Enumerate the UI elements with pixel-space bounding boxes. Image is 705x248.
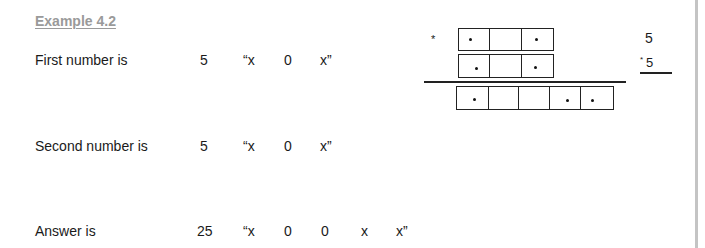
box-cell-empty xyxy=(490,55,521,77)
box-cell-dot xyxy=(581,87,613,109)
dot-icon xyxy=(475,67,478,70)
box-cell-empty xyxy=(490,29,521,50)
first-number-label: First number is xyxy=(35,52,128,68)
box-cell-dot xyxy=(522,29,553,50)
side-calc-operator: * xyxy=(640,55,643,64)
first-number-token: 0 xyxy=(284,52,292,68)
page-edge-bar xyxy=(695,0,698,248)
box-cell-dot xyxy=(459,29,490,50)
answer-value: 25 xyxy=(197,223,213,239)
answer-row: Answer is 25 “x 0 0 x x” xyxy=(35,223,435,241)
multiply-operator: * xyxy=(431,33,435,45)
box-cell-dot xyxy=(550,87,582,109)
second-number-token: x” xyxy=(320,138,332,154)
box-cell-empty xyxy=(489,87,520,109)
answer-token: x” xyxy=(396,223,408,239)
side-calc-underline xyxy=(640,72,672,74)
first-number-token: x” xyxy=(320,52,332,68)
box-cell-dot xyxy=(457,87,489,109)
dot-icon xyxy=(591,99,594,102)
answer-boxes xyxy=(456,86,614,110)
second-number-value: 5 xyxy=(200,138,208,154)
second-number-boxes xyxy=(458,54,554,78)
answer-token: x xyxy=(361,223,368,239)
box-cell-empty xyxy=(519,87,550,109)
first-number-token: “x xyxy=(243,52,255,68)
box-cell-dot xyxy=(522,55,553,77)
answer-token: “x xyxy=(243,223,255,239)
box-cell-dot xyxy=(459,55,490,77)
side-calc-top: 5 xyxy=(645,30,653,46)
answer-label: Answer is xyxy=(35,223,96,239)
separator-line xyxy=(424,81,626,83)
first-number-row: First number is 5 “x 0 x” xyxy=(35,52,435,70)
second-number-token: 0 xyxy=(284,138,292,154)
side-calc-bottom: 5 xyxy=(646,55,653,70)
dot-icon xyxy=(535,38,538,41)
example-heading: Example 4.2 xyxy=(35,13,116,29)
second-number-row: Second number is 5 “x 0 x” xyxy=(35,138,435,156)
dot-icon xyxy=(473,98,476,101)
first-number-boxes xyxy=(458,28,554,51)
dot-icon xyxy=(566,99,569,102)
answer-token: 0 xyxy=(284,223,292,239)
answer-token: 0 xyxy=(321,223,329,239)
second-number-label: Second number is xyxy=(35,138,148,154)
dot-icon xyxy=(534,66,537,69)
first-number-value: 5 xyxy=(200,52,208,68)
second-number-token: “x xyxy=(243,138,255,154)
dot-icon xyxy=(469,38,472,41)
